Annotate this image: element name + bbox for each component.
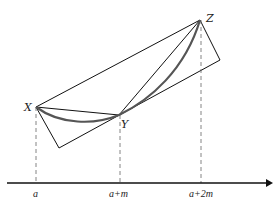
chord-yz: [119, 20, 200, 115]
curve: [36, 20, 200, 122]
axis-arrow-icon: [266, 179, 273, 187]
diagram-canvas: X Y Z a a+m a+2m: [0, 0, 274, 201]
point-label-y: Y: [121, 118, 130, 131]
tick-label-a: a: [33, 188, 38, 199]
point-label-x: X: [23, 101, 33, 114]
tick-label-a-plus-2m: a+2m: [189, 188, 213, 199]
tick-label-a-plus-m: a+m: [109, 188, 128, 199]
point-label-z: Z: [205, 12, 214, 25]
